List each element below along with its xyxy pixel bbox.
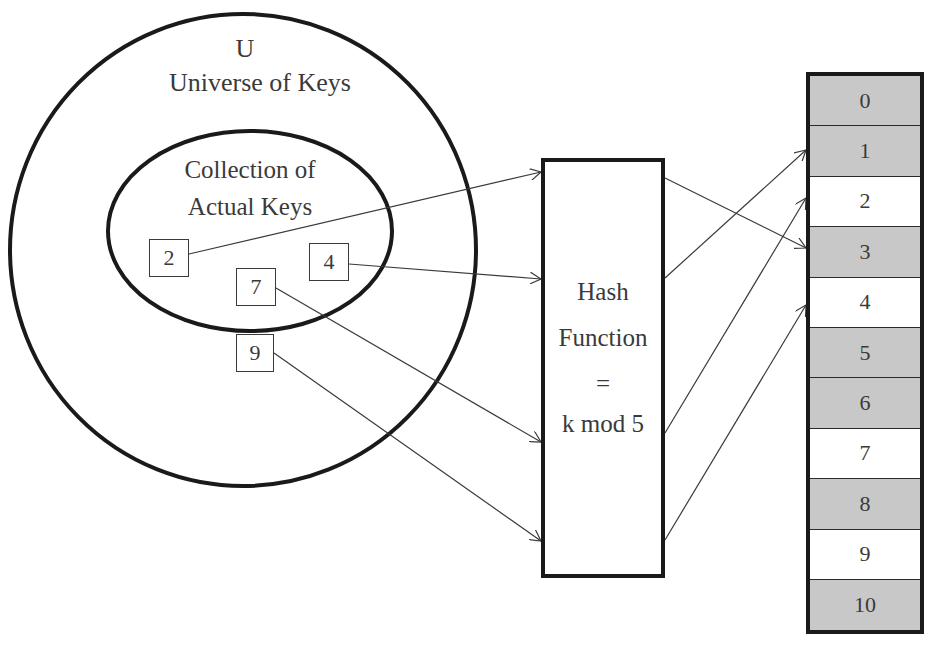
hash-function-box bbox=[541, 158, 665, 578]
universe-symbol: U bbox=[220, 34, 270, 64]
key-box-9: 9 bbox=[236, 334, 274, 372]
arrow-hash-to-slot-3-from-key-2 bbox=[665, 178, 806, 248]
arrow-key-9-to-hash bbox=[274, 353, 541, 541]
key-box-4: 4 bbox=[309, 243, 349, 281]
slot-4: 4 bbox=[810, 278, 920, 328]
slot-5: 5 bbox=[810, 328, 920, 378]
hash-function-line3: = bbox=[541, 370, 665, 398]
key-box-2: 2 bbox=[149, 239, 189, 277]
slot-9: 9 bbox=[810, 530, 920, 580]
arrow-hash-to-slot-4-from-key-4 bbox=[665, 150, 806, 278]
slot-10: 10 bbox=[810, 580, 920, 630]
slot-6: 6 bbox=[810, 378, 920, 428]
slot-3: 3 bbox=[810, 227, 920, 277]
slot-1: 1 bbox=[810, 126, 920, 176]
actual-keys-title-line2: Actual Keys bbox=[150, 193, 350, 221]
arrow-hash-to-slot-2-from-key-7 bbox=[665, 198, 806, 433]
hash-function-line1: Hash bbox=[541, 278, 665, 306]
hash-function-line4: k mod 5 bbox=[541, 410, 665, 438]
actual-keys-title-line1: Collection of bbox=[150, 156, 350, 184]
hash-table: 0 1 2 3 4 5 6 7 8 9 10 bbox=[806, 72, 924, 634]
universe-title: Universe of Keys bbox=[140, 68, 380, 98]
slot-2: 2 bbox=[810, 177, 920, 227]
slot-8: 8 bbox=[810, 479, 920, 529]
arrow-hash-to-slot-4-from-key-9 bbox=[665, 305, 806, 540]
hashing-diagram bbox=[0, 0, 929, 662]
hash-function-line2: Function bbox=[541, 324, 665, 352]
slot-7: 7 bbox=[810, 429, 920, 479]
slot-0: 0 bbox=[810, 76, 920, 126]
key-box-7: 7 bbox=[236, 268, 276, 306]
